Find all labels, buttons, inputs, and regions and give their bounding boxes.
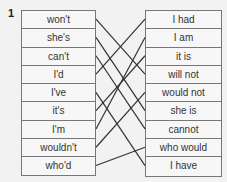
match-line (96, 37, 145, 129)
match-line (96, 92, 145, 147)
match-line (96, 92, 145, 165)
matching-lines (0, 0, 227, 182)
match-line (96, 147, 145, 165)
match-line (96, 37, 145, 110)
match-line (96, 56, 145, 129)
